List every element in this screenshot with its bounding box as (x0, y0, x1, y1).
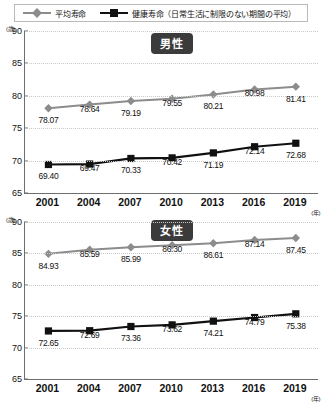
data-point-label: 80.98 (245, 88, 265, 98)
y-tick-label: 90 (12, 217, 22, 227)
legend-label-average-life-expectancy: 平均寿命 (55, 8, 86, 19)
chart-legend: 平均寿命 健康寿命（日常生活に制限のない期間の平均） (14, 4, 308, 22)
data-point-label: 79.19 (121, 108, 141, 118)
data-point-label: 75.38 (286, 321, 306, 331)
x-tick-label: 2007 (118, 196, 141, 208)
legend-label-healthy-life-expectancy: 健康寿命（日常生活に制限のない期間の平均） (132, 8, 296, 19)
y-axis-male: 657075808590 (0, 31, 24, 210)
data-point-label: 78.64 (80, 104, 100, 114)
chart-female: (歳) 657075808590 女性 84.9385.5985.9986.30… (0, 215, 322, 396)
data-point-label: 84.93 (39, 261, 59, 271)
data-point-marker (209, 90, 217, 98)
data-point-marker (209, 239, 217, 247)
data-point-label: 74.79 (245, 317, 265, 327)
x-tick-label: 2016 (242, 196, 265, 208)
gridline (25, 31, 318, 32)
data-point-marker (127, 97, 135, 105)
data-point-label: 87.45 (286, 245, 306, 255)
legend-marker-square-icon (100, 8, 128, 18)
data-point-label: 69.40 (39, 171, 59, 181)
x-tick-label: 2001 (36, 196, 59, 208)
y-tick-label: 70 (12, 343, 22, 353)
x-axis-female: (年) 2001200420072010201320162019 (24, 381, 318, 396)
data-point-marker (127, 243, 135, 251)
y-tick-label: 70 (12, 156, 22, 166)
data-point-label: 70.42 (162, 157, 182, 167)
x-axis-unit-female: (年) (311, 394, 320, 403)
data-point-label: 86.30 (162, 244, 182, 254)
data-point-label: 73.62 (162, 324, 182, 334)
data-point-label: 73.36 (121, 333, 141, 343)
y-tick-label: 65 (12, 188, 22, 198)
data-point-label: 85.59 (80, 249, 100, 259)
legend-marker-diamond-icon (23, 8, 51, 18)
x-tick-label: 2019 (283, 196, 306, 208)
chart-male: (歳) 657075808590 男性 78.0778.6479.1979.55… (0, 24, 322, 210)
data-point-marker (292, 234, 300, 242)
y-axis-female: 657075808590 (0, 222, 24, 396)
data-point-marker (45, 327, 52, 334)
data-point-marker (210, 318, 217, 325)
x-tick-label: 2016 (242, 382, 265, 394)
data-point-marker (292, 82, 300, 90)
x-tick-label: 2004 (77, 196, 100, 208)
x-tick-label: 2004 (77, 382, 100, 394)
y-tick-label: 85 (12, 58, 22, 68)
x-tick-label: 2007 (118, 382, 141, 394)
x-tick-label: 2001 (36, 382, 59, 394)
x-tick-label: 2019 (283, 382, 306, 394)
y-tick-label: 90 (12, 26, 22, 36)
gridline (25, 348, 318, 349)
legend-item-healthy-life-expectancy: 健康寿命（日常生活に制限のない期間の平均） (100, 8, 296, 19)
data-point-label: 69.47 (80, 163, 100, 173)
y-tick-label: 80 (12, 280, 22, 290)
data-point-label: 72.14 (245, 146, 265, 156)
y-tick-label: 65 (12, 374, 22, 384)
data-point-label: 79.55 (162, 98, 182, 108)
data-point-label: 72.69 (80, 330, 100, 340)
series-layer-male (25, 31, 318, 193)
y-tick-label: 75 (12, 123, 22, 133)
data-point-marker (45, 161, 52, 168)
x-tick-label: 2013 (201, 196, 224, 208)
data-point-label: 72.68 (286, 150, 306, 160)
gridline (25, 63, 318, 64)
data-point-label: 86.61 (203, 250, 223, 260)
x-tick-label: 2010 (159, 196, 182, 208)
gridline (25, 316, 318, 317)
legend-item-average-life-expectancy: 平均寿命 (23, 8, 86, 19)
x-tick-label: 2010 (159, 382, 182, 394)
gridline (25, 222, 318, 223)
data-point-label: 85.99 (121, 254, 141, 264)
data-point-marker (210, 149, 217, 156)
data-point-label: 72.65 (39, 338, 59, 348)
data-point-label: 70.33 (121, 165, 141, 175)
data-point-label: 81.41 (286, 94, 306, 104)
data-point-label: 80.21 (203, 101, 223, 111)
data-point-marker (127, 323, 134, 330)
gridline (25, 128, 318, 129)
y-tick-label: 85 (12, 248, 22, 258)
data-point-label: 87.14 (245, 239, 265, 249)
data-point-label: 71.19 (203, 160, 223, 170)
x-axis-male: (年) 2001200420072010201320162019 (24, 195, 318, 210)
plot-area-male: 男性 78.0778.6479.1979.5580.2180.9881.4169… (24, 31, 318, 194)
plot-area-female: 女性 84.9385.5985.9986.3086.6187.1487.4572… (24, 222, 318, 380)
data-point-marker (44, 104, 52, 112)
y-tick-label: 75 (12, 311, 22, 321)
gridline (25, 96, 318, 97)
data-point-label: 78.07 (39, 115, 59, 125)
data-point-marker (292, 140, 299, 147)
x-tick-label: 2013 (201, 382, 224, 394)
gridline (25, 285, 318, 286)
y-tick-label: 80 (12, 91, 22, 101)
data-point-label: 74.21 (203, 328, 223, 338)
